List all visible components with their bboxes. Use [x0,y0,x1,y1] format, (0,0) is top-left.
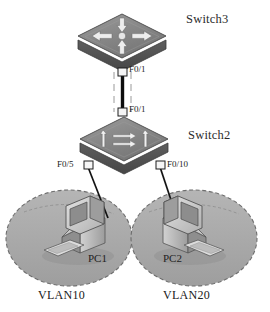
port-switch3-f01 [118,68,127,76]
port-switch2-f05 [84,161,93,169]
pc1-label: PC1 [88,252,107,264]
port-label-switch2-f010: F0/10 [167,159,188,169]
port-switch2-f010 [156,161,165,169]
vlan10-label: VLAN10 [38,288,85,303]
pc2-label: PC2 [163,252,182,264]
switch3-icon [78,14,166,71]
port-switch2-f01 [118,108,127,116]
port-label-switch2-f01: F0/1 [129,104,146,114]
switch2-label: Switch2 [188,128,230,143]
switch3-label: Switch3 [186,12,228,27]
port-label-switch3-f01: F0/1 [129,64,146,74]
vlan20-label: VLAN20 [163,288,210,303]
port-label-switch2-f05: F0/5 [57,159,74,169]
topology-canvas [0,0,270,312]
network-topology-diagram: Switch3 Switch2 F0/1 F0/1 F0/5 F0/10 PC1… [0,0,270,312]
